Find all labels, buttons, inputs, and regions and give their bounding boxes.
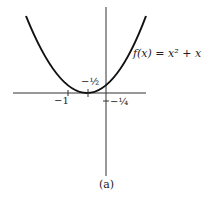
label-minus-half: −½ (81, 76, 99, 87)
label-minus-one: −1 (54, 95, 69, 106)
parabola-chart: f(x) = x² + x −1 −½ −¼ (a) (0, 0, 213, 204)
caption: (a) (99, 178, 114, 191)
function-label: f(x) = x² + x (132, 47, 202, 60)
label-minus-quarter: −¼ (110, 96, 128, 107)
